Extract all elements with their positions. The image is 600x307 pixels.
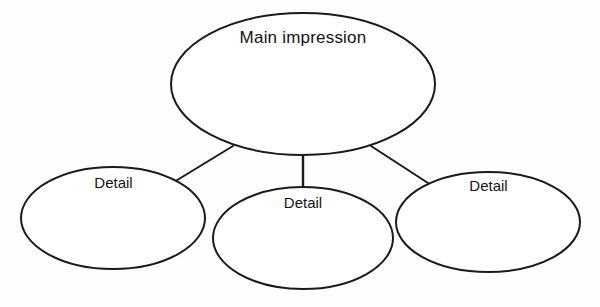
node-main-impression-label: Main impression <box>171 28 435 48</box>
diagram-canvas: Main impression Detail Detail Detail <box>0 0 600 307</box>
node-detail-center-label: Detail <box>213 194 393 211</box>
node-detail-left-label: Detail <box>21 174 206 191</box>
node-detail-right-label: Detail <box>396 177 581 194</box>
